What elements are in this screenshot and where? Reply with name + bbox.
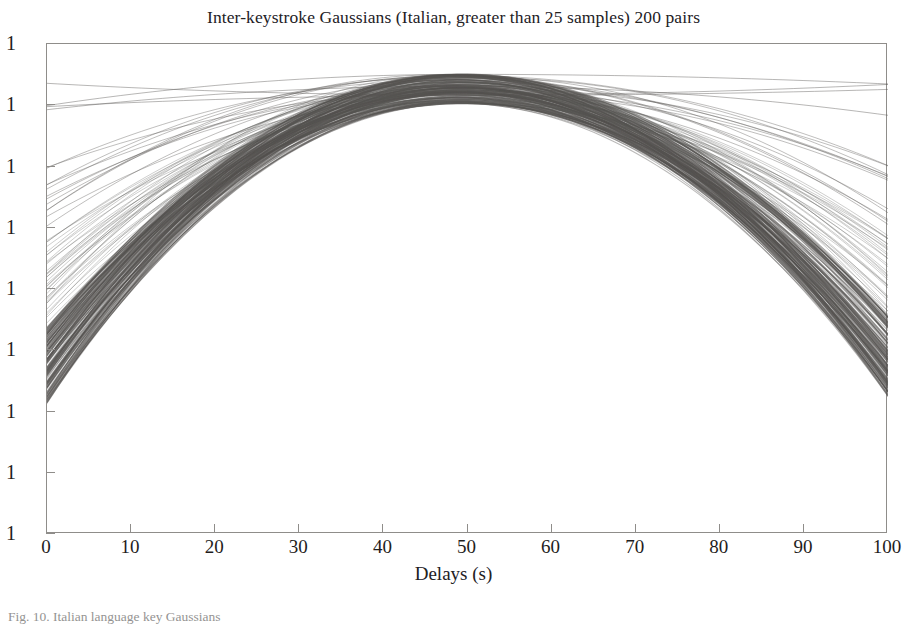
- x-axis-tick: [130, 524, 131, 533]
- figure-caption: Fig. 10. Italian language key Gaussians: [8, 609, 768, 624]
- y-axis-tick: [46, 104, 55, 105]
- gaussian-curve: [47, 97, 888, 401]
- x-axis-tick-label: 30: [263, 537, 333, 556]
- gaussian-curve: [47, 91, 888, 280]
- x-axis-tick: [214, 524, 215, 533]
- y-axis-tick-label: 1: [0, 217, 16, 237]
- y-axis-tick: [46, 43, 55, 44]
- x-axis-tick-label: 50: [432, 537, 502, 556]
- x-axis-title: Delays (s): [0, 563, 907, 585]
- x-axis-tick-label: 70: [600, 537, 670, 556]
- gaussian-curve: [47, 99, 888, 399]
- x-axis-tick-label: 100: [852, 537, 907, 556]
- figure-container: Inter-keystroke Gaussians (Italian, grea…: [0, 0, 907, 624]
- gaussian-curve: [47, 90, 888, 278]
- gaussian-curve: [47, 89, 888, 396]
- x-axis-tick-label: 20: [179, 537, 249, 556]
- x-axis-tick: [551, 524, 552, 533]
- gaussian-curve: [47, 100, 888, 400]
- y-axis-tick-label: 1: [0, 462, 16, 482]
- x-axis-tick: [719, 524, 720, 533]
- x-axis-tick: [298, 524, 299, 533]
- x-axis-tick-label: 40: [347, 537, 417, 556]
- x-axis-tick-label: 10: [95, 537, 165, 556]
- y-axis-tick-label: 1: [0, 94, 16, 114]
- y-axis-tick-label: 1: [0, 339, 16, 359]
- y-axis-tick: [46, 227, 55, 228]
- x-axis-tick: [635, 524, 636, 533]
- y-axis-tick: [46, 472, 55, 473]
- y-axis-tick: [46, 166, 55, 167]
- y-axis-tick-label: 1: [0, 401, 16, 421]
- y-axis-tick: [46, 349, 55, 350]
- x-axis-tick-label: 0: [11, 537, 81, 556]
- x-axis-tick: [803, 524, 804, 533]
- x-axis-tick-label: 80: [684, 537, 754, 556]
- x-axis-tick-label: 60: [516, 537, 586, 556]
- y-axis-tick: [46, 411, 55, 412]
- x-axis-tick: [467, 524, 468, 533]
- plot-frame: [46, 43, 887, 533]
- x-axis-tick: [382, 524, 383, 533]
- chart-title: Inter-keystroke Gaussians (Italian, grea…: [0, 7, 907, 28]
- x-axis-tick-label: 90: [768, 537, 838, 556]
- y-axis-tick: [46, 533, 55, 534]
- y-axis-tick-label: 1: [0, 156, 16, 176]
- y-axis-tick: [46, 288, 55, 289]
- gaussian-curves: [47, 44, 888, 534]
- y-axis-tick-label: 1: [0, 33, 16, 53]
- y-axis-tick-label: 1: [0, 278, 16, 298]
